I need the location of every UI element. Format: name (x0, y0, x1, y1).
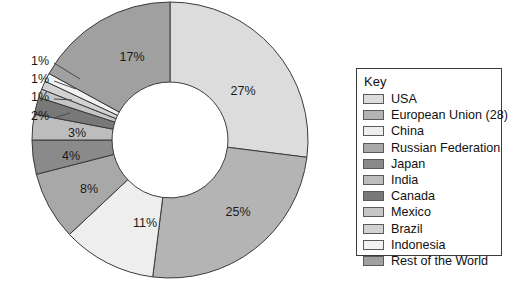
legend-item: Russian Federation (363, 140, 501, 156)
legend-item-label: Indonesia (391, 238, 446, 252)
legend-item: Canada (363, 188, 501, 204)
legend-item: India (363, 172, 501, 188)
legend-item-label: Japan (391, 157, 425, 171)
legend-swatch-icon (363, 191, 384, 201)
legend-swatch-icon (363, 126, 384, 136)
legend-item: European Union (28) (363, 107, 501, 123)
slice-value-label: 25% (225, 205, 250, 219)
legend-swatch-icon (363, 256, 384, 266)
legend-swatch-icon (363, 94, 384, 104)
callout-value-label: 2% (31, 109, 49, 123)
legend-item-label: Canada (391, 189, 435, 203)
chart-stage: 27%25%11%8%4%3%17% 1%1%1%2% Key USAEurop… (0, 0, 514, 281)
slice-value-label: 8% (80, 182, 98, 196)
legend-item: Brazil (363, 221, 501, 237)
legend-item: USA (363, 91, 501, 107)
legend-item-label: Russian Federation (391, 141, 500, 155)
slice-value-label: 4% (62, 149, 80, 163)
callout-value-label: 1% (31, 72, 49, 86)
legend-item-label: Mexico (391, 205, 431, 219)
slice-value-label: 27% (230, 84, 255, 98)
callout-value-label: 1% (31, 90, 49, 104)
pie-slice (170, 2, 308, 157)
donut-chart: 27%25%11%8%4%3%17% 1%1%1%2% (0, 0, 340, 281)
legend-item: Rest of the World (363, 253, 501, 269)
legend-item-label: India (391, 173, 418, 187)
legend-swatch-icon (363, 159, 384, 169)
legend-swatch-icon (363, 110, 384, 120)
callout-value-label: 1% (31, 54, 49, 68)
slice-value-label: 3% (68, 126, 86, 140)
slice-value-label: 17% (119, 50, 144, 64)
legend-swatch-icon (363, 224, 384, 234)
legend-item: Mexico (363, 204, 501, 220)
legend-swatch-icon (363, 175, 384, 185)
legend-item-label: China (391, 124, 424, 138)
legend-item-label: Brazil (391, 222, 423, 236)
legend-item-label: USA (391, 92, 417, 106)
legend-swatch-icon (363, 207, 384, 217)
legend-item: Japan (363, 156, 501, 172)
legend-item: Indonesia (363, 237, 501, 253)
chart-legend: Key USAEuropean Union (28)ChinaRussian F… (356, 68, 502, 256)
slice-value-label: 11% (133, 216, 157, 230)
legend-item-label: European Union (28) (391, 108, 508, 122)
legend-item: China (363, 123, 501, 139)
legend-swatch-icon (363, 240, 384, 250)
legend-items: USAEuropean Union (28)ChinaRussian Feder… (363, 91, 501, 269)
legend-swatch-icon (363, 143, 384, 153)
legend-title: Key (364, 74, 501, 89)
legend-item-label: Rest of the World (391, 254, 488, 268)
